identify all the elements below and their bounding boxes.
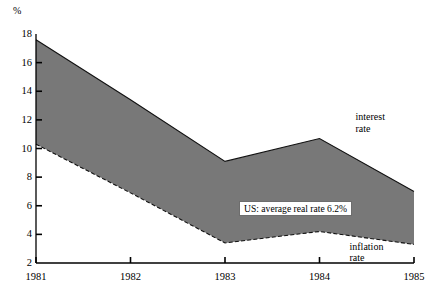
inflation-rate-label: inflation rate	[350, 241, 384, 264]
average-real-rate-callout: US: average real rate 6.2%	[239, 201, 352, 217]
x-axis-tick-label: 1984	[309, 272, 330, 283]
interest-rate-label: interest rate	[356, 111, 385, 134]
x-axis-tick-label: 1983	[215, 272, 236, 283]
x-axis-tick-label: 1985	[404, 272, 425, 283]
x-axis-tick-label: 1981	[26, 272, 47, 283]
x-axis-tick-label: 1982	[120, 272, 141, 283]
chart-figure: % 24681012141618 19811982198319841985 in…	[0, 0, 426, 293]
